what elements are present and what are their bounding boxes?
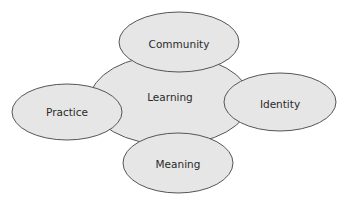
node-meaning: Meaning — [123, 133, 233, 193]
node-practice-label: Practice — [46, 106, 88, 118]
node-community: Community — [119, 12, 239, 72]
node-practice: Practice — [12, 84, 122, 140]
node-learning-label: Learning — [147, 91, 193, 103]
learning-diagram: Learning Community Practice Identity Mea… — [0, 0, 344, 204]
node-identity: Identity — [224, 73, 336, 131]
node-meaning-label: Meaning — [156, 158, 201, 170]
node-community-label: Community — [149, 38, 210, 50]
node-identity-label: Identity — [260, 98, 300, 110]
